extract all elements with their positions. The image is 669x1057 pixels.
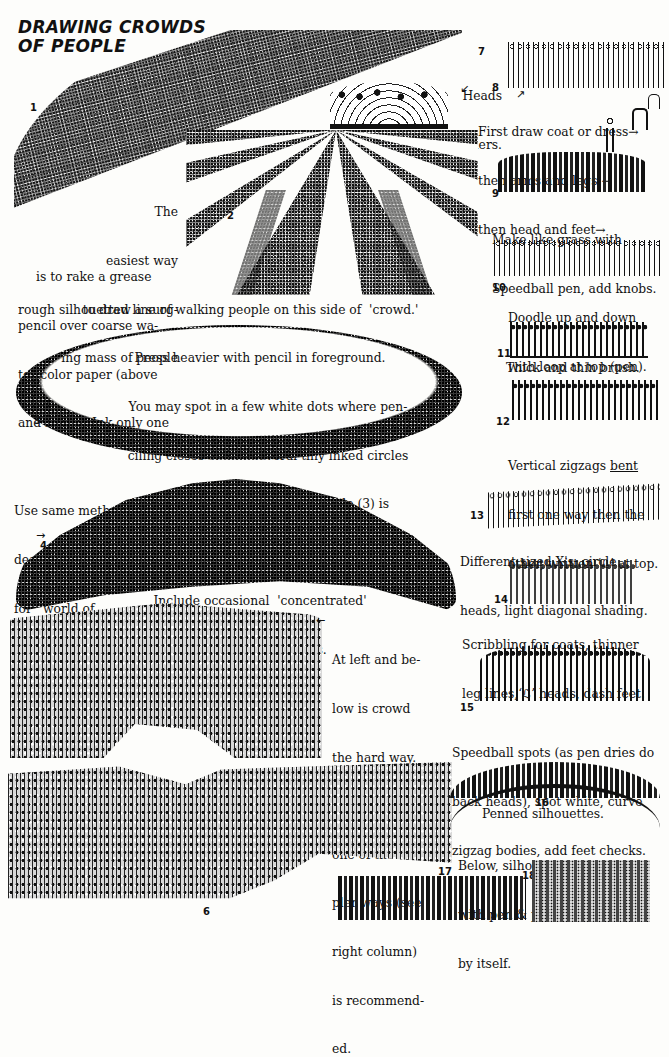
intro-text-continuation: rough silhouetted line of walking people…: [18, 302, 418, 318]
figure-16-caption: Penned silhouettes.: [482, 806, 604, 822]
figure-15-speedball-figures: [480, 645, 650, 701]
figure-5-arrow-icon: ←: [316, 614, 325, 627]
figure-5-detailed-crowd: [10, 603, 322, 758]
figure-11-caption: Thick and thin brush.: [506, 360, 640, 376]
figure-11-brush-figures: [510, 322, 648, 358]
figure-2-number: 2: [227, 210, 234, 221]
figure-8-standing-figures: [508, 42, 664, 88]
arms-legs-step-icon: [632, 108, 648, 130]
figure-1-number: 1: [30, 102, 37, 113]
figure-9-grass-figures: [498, 152, 646, 192]
figure-12-zigzag-figures: [512, 380, 658, 420]
figure-10-number: 10: [492, 282, 506, 293]
figure-3-number: 3: [34, 415, 41, 426]
figure-11-number: 11: [497, 348, 511, 359]
coat-step-icon: [648, 94, 660, 109]
figure-6-number: 6: [203, 906, 210, 917]
figure-10-doodle-figures: [494, 240, 664, 276]
figure-17-silhouettes: [338, 876, 526, 920]
figure-9-number: 9: [492, 188, 499, 199]
figure-14-number: 14: [494, 594, 508, 605]
figure-7-arrow-icon: ↙: [460, 82, 469, 95]
figure-13-number: 13: [470, 510, 484, 521]
figure-18-coquille-figures: [532, 860, 650, 922]
figure-3-circle-of-people: [16, 325, 462, 460]
figure-14-scribble-figures: [510, 560, 636, 604]
head-feet-step-icon: [604, 118, 616, 156]
figure-15-number: 15: [460, 702, 474, 713]
